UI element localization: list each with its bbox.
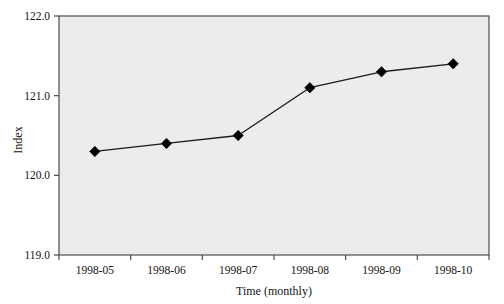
y-tick-label: 119.0 [25, 249, 51, 261]
chart-figure: 119.0120.0121.0122.0 1998-051998-061998-… [0, 0, 504, 304]
line-chart-canvas: 119.0120.0121.0122.0 1998-051998-061998-… [0, 0, 504, 304]
x-tick-label: 1998-08 [291, 264, 330, 276]
x-axis-title: Time (monthly) [236, 284, 312, 298]
y-axis-title: Index [11, 126, 25, 153]
x-tick-label: 1998-10 [434, 264, 473, 276]
x-tick-label: 1998-06 [147, 264, 186, 276]
x-tick-label: 1998-05 [76, 264, 115, 276]
y-tick-label: 120.0 [24, 169, 50, 181]
plot-area-background [59, 16, 489, 255]
y-tick-label: 122.0 [24, 10, 50, 22]
x-tick-label: 1998-07 [219, 264, 258, 276]
x-tick-label: 1998-09 [362, 264, 401, 276]
y-tick-label: 121.0 [24, 90, 50, 102]
